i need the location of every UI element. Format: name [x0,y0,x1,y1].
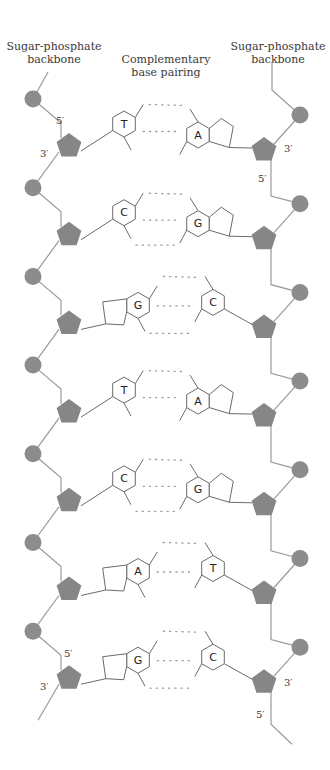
backbone-segment [271,692,292,744]
glycosidic-bond [229,502,252,503]
base-letter-left: G [134,654,143,667]
phosphate-circle [25,445,42,462]
substituent-bond [180,408,187,421]
base-letter-left: A [134,565,142,578]
substituent-bond [135,371,143,384]
phosphate-circle [25,623,42,640]
base-letter-left: T [120,118,128,131]
deoxyribose-pentagon [57,310,82,334]
phosphate-circle [292,107,309,124]
purine-pentagon [103,565,127,591]
hydrogen-bond [149,105,184,106]
substituent-bond [195,664,202,677]
base-letter-left: C [120,472,128,485]
phosphate-circle [25,357,42,374]
substituent-bond [195,575,202,588]
purine-pentagon [209,119,233,148]
deoxyribose-pentagon [57,399,82,423]
substituent-bond [190,198,198,211]
phosphate-circle [292,550,309,567]
base-letter-right: T [209,562,217,575]
right-top-3prime: 3′ [284,143,293,154]
substituent-bond [180,230,187,243]
phosphate-circle [292,461,309,478]
substituent-bond [195,309,202,322]
substituent-bond [135,459,143,472]
deoxyribose-pentagon [57,488,82,512]
right-top-5prime: 5′ [258,173,267,184]
substituent-bond [135,105,143,118]
base-pair-row: CG [81,193,252,245]
substituent-bond [190,109,198,122]
phosphate-circle [25,268,42,285]
glycosidic-bond [229,414,252,415]
phosphate-circle [25,91,42,108]
deoxyribose-pentagon [252,403,277,427]
phosphate-circle [292,195,309,212]
deoxyribose-pentagon [252,492,277,516]
glycosidic-bond [229,148,252,149]
right-backbone [252,62,309,744]
glycosidic-bond [224,664,252,680]
glycosidic-bond [81,590,106,596]
substituent-bond [124,226,131,239]
deoxyribose-pentagon [57,222,82,246]
glycosidic-bond [81,219,113,240]
purine-pentagon [209,207,233,236]
hydrogen-bond [149,193,184,194]
substituent-bond [190,375,198,388]
base-letter-left: G [134,299,143,312]
substituent-bond [149,552,157,565]
deoxyribose-pentagon [57,665,82,689]
base-letter-right: G [194,217,203,230]
left-top-3prime: 3′ [40,148,49,159]
substituent-bond [124,492,131,505]
substituent-bond [180,496,187,509]
base-pair-row: AT [81,543,252,598]
glycosidic-bond [224,309,252,325]
base-letter-left: T [120,384,128,397]
substituent-bond [149,286,157,299]
glycosidic-bond [81,397,113,418]
purine-pentagon [209,385,233,414]
substituent-bond [149,641,157,654]
substituent-bond [205,543,213,556]
phosphate-circle [25,179,42,196]
phosphate-circle [292,639,309,656]
base-letter-right: C [209,296,217,309]
substituent-bond [205,276,213,289]
hydrogen-bond [163,276,199,277]
hydrogen-bond [149,371,184,372]
deoxyribose-pentagon [57,133,82,157]
hydrogen-bond [149,459,184,460]
glycosidic-bond [224,575,252,591]
left-backbone [25,72,82,720]
deoxyribose-pentagon [252,137,277,161]
purine-pentagon [103,654,127,680]
base-letter-right: C [209,651,217,664]
deoxyribose-pentagon [252,314,277,338]
right-bottom-3prime: 3′ [284,677,293,688]
phosphate-circle [25,534,42,551]
deoxyribose-pentagon [252,581,277,605]
substituent-bond [190,464,198,477]
base-pair-row: TA [81,105,252,155]
glycosidic-bond [81,485,113,506]
substituent-bond [138,673,145,686]
hydrogen-bond [163,543,199,544]
left-bottom-3prime: 3′ [40,681,49,692]
base-letter-right: G [194,483,203,496]
glycosidic-bond [81,679,106,685]
hydrogen-bond [163,631,199,632]
phosphate-circle [292,284,309,301]
base-pair-row: TA [81,371,252,421]
deoxyribose-pentagon [252,669,277,693]
phosphate-circle [292,373,309,390]
base-letter-left: C [120,206,128,219]
left-bottom-5prime: 5′ [64,648,73,659]
base-pair-row: CG [81,459,252,511]
base-letter-right: A [194,129,202,142]
substituent-bond [124,137,131,150]
backbone-segment [272,62,300,115]
base-pair-row: GC [81,631,252,688]
